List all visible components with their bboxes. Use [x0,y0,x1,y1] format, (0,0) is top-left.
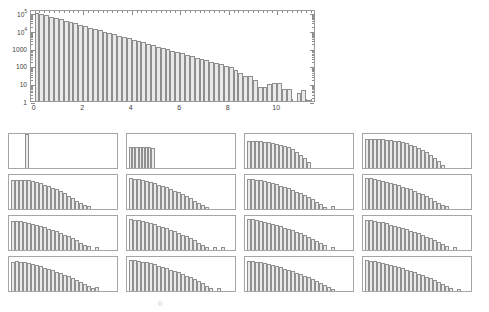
tick-mark [31,55,33,56]
small-multiple-panel-2 [126,133,236,169]
tick-mark [312,62,314,63]
tick-mark [64,11,65,13]
histogram-bar [323,207,327,209]
tick-mark [234,11,235,13]
histogram-bar [445,206,449,209]
small-multiple-plot-area [127,175,235,209]
tick-mark [78,11,79,13]
y-axis-tick-labels: 1101001000104105 [0,10,30,102]
tick-mark [31,27,33,28]
tick-mark [49,99,50,101]
tick-mark [127,99,128,101]
tick-mark [312,41,314,42]
tick-mark [166,11,167,13]
tick-mark [292,11,293,13]
small-multiple-panel-6 [126,174,236,210]
main-histogram-figure: 1101001000104105 0246810 [0,0,330,126]
tick-mark [31,70,33,71]
tick-mark [44,99,45,101]
tick-mark [31,35,33,36]
y-axis-tick-label: 1 [23,99,27,106]
small-multiple-plot-area [245,175,353,209]
tick-mark [312,23,314,24]
histogram-bar [95,247,99,250]
tick-mark [219,99,220,101]
tick-mark [297,99,298,101]
histogram-bar [209,288,213,291]
small-multiple-plot-area [363,134,471,168]
tick-mark [312,70,314,71]
tick-mark [31,19,33,20]
small-multiple-panel-12 [362,215,472,251]
tick-mark [78,99,79,101]
tick-mark [312,88,314,89]
small-multiple-panel-3 [244,133,354,169]
tick-mark [31,88,33,89]
small-multiple-plot-area [245,134,353,168]
tick-mark [122,11,123,13]
x-axis-tick-label: 6 [177,104,181,112]
x-axis-tick-labels: 0246810 [30,104,315,118]
histogram-bar [323,245,327,250]
tick-mark [31,18,33,19]
y-axis-tick-label: 100 [16,63,27,70]
tick-mark [31,32,35,33]
tick-mark [243,11,244,13]
small-multiple-plot-area [363,175,471,209]
tick-mark [312,39,314,40]
tick-mark [267,99,268,101]
tick-mark [31,21,33,22]
small-multiple-panel-10 [126,215,236,251]
tick-mark [258,11,259,13]
small-multiples-row [8,133,482,171]
small-multiples-row [8,174,482,212]
histogram-bar [151,148,154,168]
tick-mark [31,52,33,53]
tick-mark [93,99,94,101]
tick-mark [312,98,314,99]
tick-mark [263,99,264,101]
histogram-bar [441,165,445,168]
small-multiple-plot-area [363,216,471,250]
tick-mark [312,27,314,28]
tick-mark [180,11,181,15]
small-multiple-panel-1 [8,133,118,169]
tick-mark [224,99,225,101]
tick-mark [312,95,314,96]
tick-mark [31,16,33,17]
tick-mark [59,99,60,101]
tick-mark [161,11,162,13]
tick-mark [31,98,33,99]
tick-mark [310,50,314,51]
small-multiple-plot-area [9,134,117,168]
tick-mark [112,11,113,13]
tick-mark [31,91,33,92]
tick-mark [312,69,314,70]
tick-mark [35,97,36,101]
tick-mark [54,11,55,13]
tick-mark [31,80,33,81]
small-multiple-panel-14 [126,256,236,292]
histogram-bar [457,289,461,291]
tick-mark [31,57,33,58]
tick-mark [132,11,133,15]
tick-mark [248,11,249,13]
main-histogram-bars [31,11,314,101]
tick-mark [31,44,33,45]
tick-mark [161,99,162,101]
tick-mark [253,99,254,101]
tick-mark [272,99,273,101]
tick-mark [31,87,33,88]
small-multiple-plot-area [127,257,235,291]
small-multiple-panel-8 [362,174,472,210]
small-multiple-panel-5 [8,174,118,210]
tick-mark [170,11,171,13]
tick-mark [312,19,314,20]
tick-mark [73,11,74,13]
tick-mark [253,11,254,13]
tick-mark [31,69,33,70]
tick-mark [31,71,33,72]
tick-mark [31,89,33,90]
tick-mark [31,67,35,68]
x-axis-tick-label: 8 [226,104,230,112]
